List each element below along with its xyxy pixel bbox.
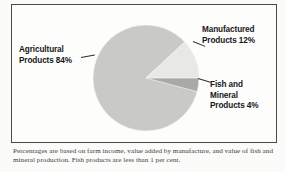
chart-caption: Percentages are based on farm income, va…: [13, 147, 275, 164]
leader-line-fish-mineral: [198, 78, 211, 83]
chart-frame: Agricultural Products 84% Manufactured P…: [11, 4, 277, 143]
pie-chart-svg: [93, 25, 199, 131]
pie-chart: [93, 25, 199, 131]
pie-label-manufactured: Manufactured Products 12%: [202, 25, 278, 46]
pie-label-fish-mineral: Fish and Mineral Products 4%: [210, 80, 280, 112]
pie-label-agricultural: Agricultural Products 84%: [19, 45, 97, 66]
